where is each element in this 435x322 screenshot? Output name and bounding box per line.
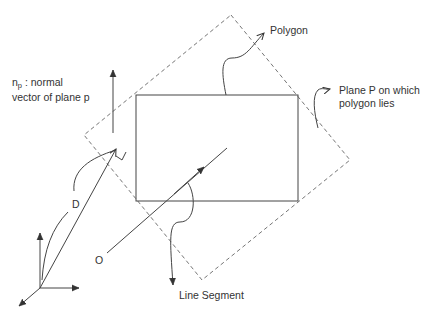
normal-label-line2: vector of plane p	[12, 91, 90, 103]
plane-leader	[314, 89, 330, 128]
distance-label: D	[72, 198, 80, 210]
distance-leader-lower	[42, 212, 68, 280]
diagram-canvas: np : normal vector of plane p Polygon Pl…	[0, 0, 435, 322]
polygon-label: Polygon	[270, 24, 308, 36]
distance-vector-arrow	[40, 149, 116, 288]
line-segment-leader	[171, 183, 194, 285]
line-segment-label: Line Segment	[179, 289, 244, 301]
right-angle-marker	[116, 152, 126, 160]
polygon-leader	[223, 33, 264, 95]
origin-label: O	[95, 254, 103, 266]
polygon-rectangle	[136, 95, 298, 201]
distance-leader	[74, 150, 116, 191]
normal-label: np : normal	[12, 76, 63, 90]
plane-label-line2: polygon lies	[339, 97, 394, 109]
line-segment-arrow	[174, 167, 204, 194]
plane-p-outline	[84, 15, 350, 280]
z-axis	[19, 288, 40, 306]
plane-label-line1: Plane P on which	[339, 84, 420, 96]
